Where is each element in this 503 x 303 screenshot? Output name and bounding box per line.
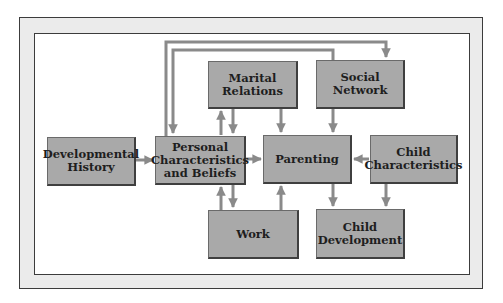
- node-child-development: Child Development: [316, 209, 405, 259]
- node-social-network: Social Network: [316, 60, 405, 109]
- node-personal-characteristics: Personal Characteristics and Beliefs: [155, 136, 246, 185]
- node-child-characteristics: Child Characteristics: [370, 135, 458, 184]
- node-developmental-history: Developmental History: [47, 137, 136, 186]
- node-parenting: Parenting: [263, 135, 352, 184]
- node-marital-relations: Marital Relations: [208, 61, 298, 109]
- node-work: Work: [208, 210, 299, 259]
